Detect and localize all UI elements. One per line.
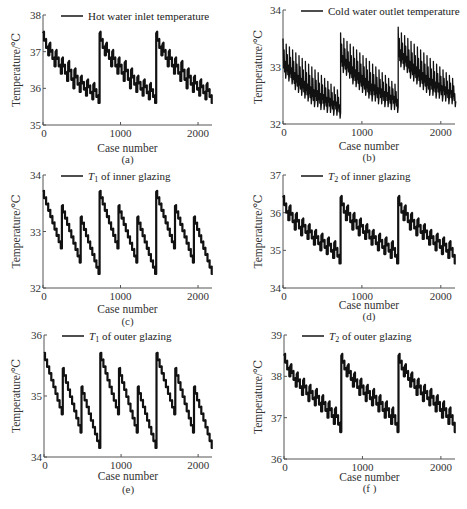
x-tick-label: 2000 — [430, 290, 453, 302]
y-tick-label: 37 — [30, 46, 42, 58]
legend-label: T1 of outer glazing — [89, 330, 172, 344]
x-tick-label: 0 — [281, 290, 287, 302]
y-tick-label: 34 — [270, 282, 282, 294]
chart-panel-d: 34353637010002000Case numberTemperature/… — [252, 169, 456, 323]
y-tick-label: 33 — [270, 61, 282, 73]
x-tick-label: 2000 — [187, 459, 210, 471]
y-tick-label: 34 — [31, 451, 43, 463]
y-tick-label: 39 — [271, 329, 283, 341]
y-tick-label: 32 — [270, 118, 281, 130]
panel-caption: (f ) — [363, 482, 377, 495]
x-tick-label: 1000 — [110, 127, 133, 139]
y-tick-label: 38 — [30, 9, 42, 21]
y-axis-title: Temperature/℃ — [252, 194, 265, 268]
y-axis-title: Temperature/℃ — [10, 359, 23, 433]
y-tick-label: 35 — [270, 244, 282, 256]
panel-caption: (b) — [363, 151, 376, 164]
y-tick-label: 38 — [271, 370, 283, 382]
y-tick-label: 35 — [31, 390, 43, 402]
x-tick-label: 0 — [282, 461, 288, 473]
series-line-f — [284, 354, 456, 432]
y-tick-label: 35 — [30, 119, 42, 131]
x-tick-label: 2000 — [187, 290, 210, 302]
x-tick-label: 0 — [41, 127, 47, 139]
series-line-c — [43, 191, 213, 274]
chart-panel-c: 323334010002000Case numberTemperature/℃(… — [10, 169, 213, 328]
x-tick-label: 0 — [42, 459, 48, 471]
x-axis-title: Case number — [97, 303, 158, 315]
y-axis-title: Temperature/℃ — [10, 194, 23, 268]
legend-label-suffix: of inner glazing — [338, 170, 411, 182]
legend-label-main: Hot water inlet temperature — [88, 10, 209, 22]
y-tick-label: 32 — [30, 282, 41, 294]
chart-panel-f: 36373839010002000Case numberTemperature/… — [252, 329, 456, 495]
series-line-b — [283, 27, 456, 118]
y-axis-title: Temperature/℃ — [10, 33, 23, 107]
figure: 35363738010002000Case numberTemperature/… — [0, 0, 467, 509]
y-tick-label: 37 — [270, 169, 282, 181]
y-tick-label: 36 — [271, 453, 283, 465]
chart-panel-a: 35363738010002000Case numberTemperature/… — [10, 9, 213, 166]
chart-panel-e: 343536010002000Case numberTemperature/℃(… — [10, 329, 213, 496]
legend-label-suffix: of outer glazing — [339, 330, 412, 342]
y-tick-label: 34 — [30, 169, 42, 181]
panel-caption: (e) — [122, 483, 135, 496]
panel-caption: (d) — [363, 310, 376, 323]
y-tick-label: 36 — [270, 207, 282, 219]
y-tick-label: 36 — [31, 329, 43, 341]
series-line-a — [43, 32, 213, 103]
x-tick-label: 2000 — [187, 127, 210, 139]
legend-label: T2 of outer glazing — [329, 330, 412, 344]
x-tick-label: 2000 — [430, 126, 453, 138]
legend-label-suffix: of inner glazing — [98, 170, 171, 182]
legend-label-main: Cold water outlet temperature — [328, 5, 460, 17]
x-tick-label: 0 — [41, 290, 47, 302]
y-axis-title: Temperature/℃ — [252, 30, 265, 104]
y-tick-label: 33 — [30, 226, 42, 238]
chart-panel-b: 323334010002000Case numberTemperature/℃(… — [252, 4, 460, 164]
y-axis-title: Temperature/℃ — [252, 360, 265, 434]
y-tick-label: 37 — [271, 412, 283, 424]
x-tick-label: 0 — [281, 126, 287, 138]
panel-caption: (c) — [121, 315, 134, 328]
legend-label-suffix: of outer glazing — [99, 330, 172, 342]
x-tick-label: 1000 — [351, 126, 374, 138]
legend-label: Hot water inlet temperature — [88, 10, 209, 22]
series-line-e — [44, 353, 213, 448]
x-axis-title: Case number — [98, 470, 159, 482]
panel-caption: (a) — [121, 153, 134, 166]
y-tick-label: 36 — [30, 82, 42, 94]
legend-label: T1 of inner glazing — [88, 170, 171, 184]
x-tick-label: 2000 — [430, 461, 453, 473]
x-tick-label: 1000 — [110, 290, 133, 302]
legend-label: T2 of inner glazing — [328, 170, 411, 184]
series-line-d — [283, 196, 456, 264]
y-tick-label: 34 — [270, 4, 282, 16]
legend-label: Cold water outlet temperature — [328, 5, 460, 17]
